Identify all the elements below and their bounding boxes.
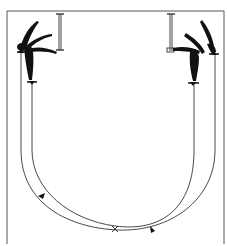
marker-arrowheads bbox=[18, 49, 217, 86]
gymnast-right-icon bbox=[173, 20, 216, 81]
start-markers bbox=[17, 52, 219, 83]
outer-path bbox=[21, 53, 215, 230]
inner-path bbox=[32, 83, 194, 227]
crossing-mark-icon bbox=[112, 226, 118, 232]
right-bar-apparatus bbox=[167, 14, 175, 52]
left-bar-apparatus bbox=[56, 14, 64, 50]
diagram-canvas: Gymnast movement path diagram bbox=[0, 0, 227, 246]
diagram-svg bbox=[0, 0, 227, 246]
gymnast-left-icon bbox=[17, 21, 57, 80]
arrow-left-icon bbox=[38, 193, 45, 199]
arrow-right-icon bbox=[150, 226, 155, 233]
court-boundary bbox=[7, 11, 224, 244]
